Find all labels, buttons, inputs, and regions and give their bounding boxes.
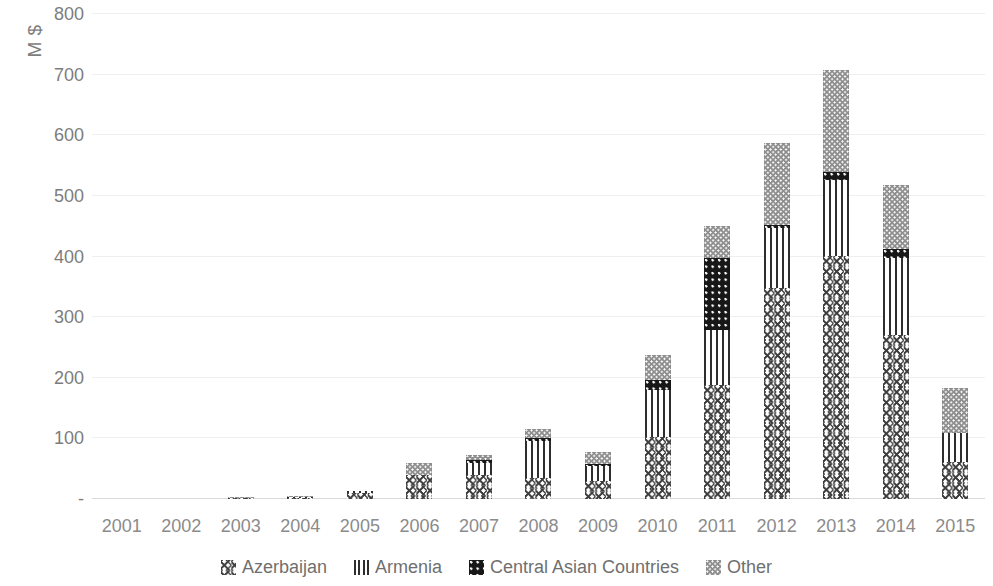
bar-segment[interactable]	[347, 491, 373, 493]
stacked-bar[interactable]	[525, 429, 551, 499]
bar-segment[interactable]	[883, 335, 909, 499]
bar-segment[interactable]	[823, 180, 849, 256]
stacked-bar[interactable]	[823, 70, 849, 499]
legend-label: Central Asian Countries	[490, 557, 679, 578]
bar-segment[interactable]	[645, 380, 671, 390]
bar-segment[interactable]	[704, 226, 730, 258]
stacked-bar-chart: M $ 800700600500400300200100- 2001200220…	[0, 0, 993, 586]
bar-segment[interactable]	[466, 463, 492, 475]
stacked-bar[interactable]	[466, 455, 492, 499]
bar-segment[interactable]	[585, 481, 611, 499]
bar-segment[interactable]	[466, 475, 492, 499]
bar-segment[interactable]	[883, 185, 909, 249]
x-axis-tick-labels: 2001200220032004200520062007200820092010…	[92, 505, 985, 535]
bar-segment[interactable]	[466, 455, 492, 460]
bar-segment[interactable]	[883, 258, 909, 336]
bar-segment[interactable]	[585, 464, 611, 466]
bar-segment[interactable]	[704, 258, 730, 330]
bar-segment[interactable]	[525, 441, 551, 477]
stacked-bar[interactable]	[406, 463, 432, 499]
bar-segment[interactable]	[823, 256, 849, 499]
legend-item[interactable]: Armenia	[354, 557, 442, 578]
bar-segment[interactable]	[645, 437, 671, 499]
bar-column[interactable]	[211, 14, 271, 499]
bar-column[interactable]	[152, 14, 212, 499]
bar-column[interactable]	[330, 14, 390, 499]
bar-segment[interactable]	[406, 475, 432, 499]
stacked-bar[interactable]	[764, 143, 790, 499]
x-axis-tick-label: 2012	[747, 517, 807, 535]
bar-segment[interactable]	[764, 225, 790, 228]
bar-segment[interactable]	[525, 438, 551, 441]
bar-segment[interactable]	[645, 390, 671, 437]
bar-segment[interactable]	[287, 496, 313, 498]
y-axis-tick-label: 100	[24, 429, 84, 447]
x-axis-tick-label: 2009	[568, 517, 628, 535]
bar-column[interactable]	[866, 14, 926, 499]
x-axis-tick-label: 2001	[92, 517, 152, 535]
y-axis-tick-labels: 800700600500400300200100-	[0, 14, 84, 499]
bar-column[interactable]	[449, 14, 509, 499]
bar-segment[interactable]	[883, 249, 909, 258]
x-axis-tick-label: 2010	[628, 517, 688, 535]
bar-column[interactable]	[390, 14, 450, 499]
bar-column[interactable]	[925, 14, 985, 499]
y-axis-tick-label: 300	[24, 308, 84, 326]
stacked-bar[interactable]	[645, 355, 671, 499]
legend-item[interactable]: Azerbaijan	[221, 557, 327, 578]
bar-segment[interactable]	[525, 429, 551, 438]
bar-segment[interactable]	[764, 143, 790, 225]
stacked-bar[interactable]	[883, 185, 909, 499]
bar-segment[interactable]	[347, 493, 373, 499]
bar-column[interactable]	[568, 14, 628, 499]
legend-item[interactable]: Other	[706, 557, 772, 578]
stacked-bar[interactable]	[347, 491, 373, 499]
bar-column[interactable]	[747, 14, 807, 499]
legend-label: Azerbaijan	[242, 557, 327, 578]
stacked-bar[interactable]	[942, 388, 968, 499]
legend-swatch-icon	[221, 560, 236, 575]
bar-column[interactable]	[92, 14, 152, 499]
bar-segment[interactable]	[645, 355, 671, 380]
bar-segment[interactable]	[764, 288, 790, 499]
x-axis-tick-label: 2005	[330, 517, 390, 535]
bar-segment[interactable]	[585, 452, 611, 464]
plot-area	[92, 14, 985, 499]
bar-segment[interactable]	[942, 462, 968, 499]
x-axis-tick-label: 2007	[449, 517, 509, 535]
stacked-bar[interactable]	[585, 452, 611, 499]
x-axis-tick-label: 2002	[151, 517, 211, 535]
bar-segment[interactable]	[228, 497, 254, 499]
stacked-bar[interactable]	[228, 498, 254, 499]
legend-swatch-icon	[469, 560, 484, 575]
x-axis-tick-label: 2008	[509, 517, 569, 535]
x-axis-tick-label: 2006	[389, 517, 449, 535]
bar-segment[interactable]	[406, 463, 432, 475]
stacked-bar[interactable]	[704, 226, 730, 499]
bar-segment[interactable]	[942, 433, 968, 462]
bar-segment[interactable]	[466, 460, 492, 463]
bar-segment[interactable]	[585, 466, 611, 481]
y-axis-tick-label: 800	[24, 5, 84, 23]
x-axis-tick-label: 2014	[866, 517, 926, 535]
stacked-bar[interactable]	[287, 497, 313, 499]
y-axis-tick-label: 700	[24, 66, 84, 84]
bar-column[interactable]	[271, 14, 331, 499]
bar-segment[interactable]	[525, 478, 551, 499]
bar-segment[interactable]	[942, 388, 968, 433]
bar-segment[interactable]	[823, 70, 849, 171]
bar-segment[interactable]	[704, 385, 730, 499]
x-axis-tick-label: 2011	[687, 517, 747, 535]
bar-column[interactable]	[806, 14, 866, 499]
bar-column[interactable]	[687, 14, 747, 499]
y-axis-tick-label: -	[24, 490, 84, 508]
bar-segment[interactable]	[764, 228, 790, 288]
bar-column[interactable]	[628, 14, 688, 499]
bar-segment[interactable]	[823, 172, 849, 180]
bar-segment[interactable]	[704, 330, 730, 385]
x-axis-tick-label: 2013	[806, 517, 866, 535]
legend-item[interactable]: Central Asian Countries	[469, 557, 679, 578]
chart-legend: AzerbaijanArmeniaCentral Asian Countries…	[0, 552, 993, 582]
bar-column[interactable]	[509, 14, 569, 499]
y-axis-tick-label: 400	[24, 248, 84, 266]
